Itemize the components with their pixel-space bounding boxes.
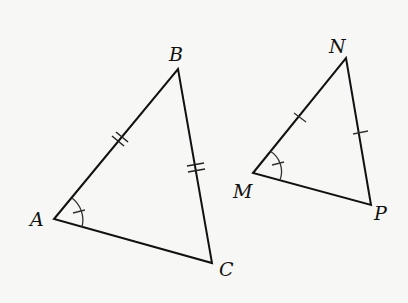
angle-m-tick [272, 162, 284, 165]
label-n: N [328, 35, 347, 57]
np-tick-mark [353, 131, 368, 134]
triangle-mnp [253, 58, 371, 205]
congruent-triangles-diagram: A B C M N P [0, 0, 408, 303]
label-c: C [219, 258, 234, 280]
label-p: P [373, 202, 388, 224]
angle-m-arc [270, 151, 282, 180]
label-b: B [168, 43, 183, 65]
angle-a-tick [73, 210, 85, 213]
label-m: M [232, 180, 253, 202]
label-a: A [28, 208, 44, 230]
